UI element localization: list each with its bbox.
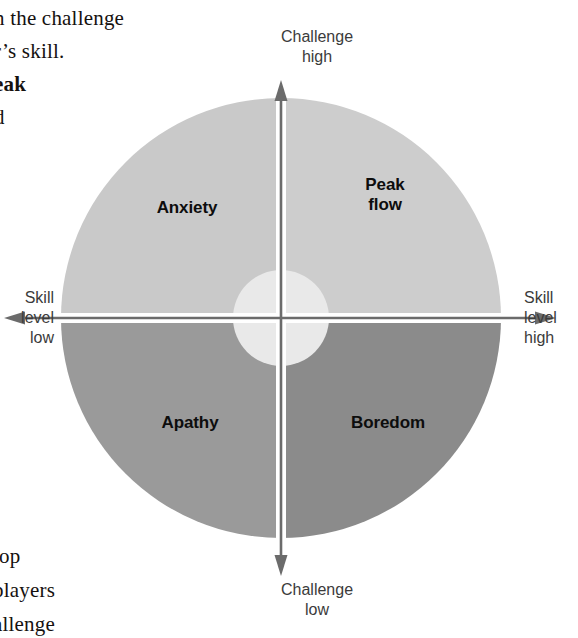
axis-label-challenge-low: Challenge low [262, 580, 372, 620]
axis-label-skill-high: Skill level high [524, 288, 557, 348]
axis-label-challenge-low-line1: Challenge [262, 580, 372, 600]
axis-label-challenge-low-line2: low [262, 600, 372, 620]
quadrant-label-peak-flow-line2: flow [330, 195, 440, 215]
axis-label-skill-high-line2: level [524, 308, 557, 328]
axis-label-skill-low-line1: Skill [0, 288, 54, 308]
quadrant-label-anxiety: Anxiety [117, 198, 257, 218]
axis-label-skill-low-line2: level [0, 308, 54, 328]
quadrant-label-peak-flow: Peak flow [330, 175, 440, 215]
axis-label-skill-low: Skill level low [0, 288, 54, 348]
flow-diagram-svg [0, 0, 578, 638]
quadrant-label-boredom: Boredom [318, 413, 458, 433]
axis-label-skill-high-line3: high [524, 328, 557, 348]
axis-label-challenge-high-line2: high [262, 47, 372, 67]
axis-label-challenge-high: Challenge high [262, 27, 372, 67]
axis-label-skill-high-line1: Skill [524, 288, 557, 308]
axis-label-challenge-high-line1: Challenge [262, 27, 372, 47]
quadrant-label-apathy: Apathy [120, 413, 260, 433]
flow-quadrant-diagram: Anxiety Peak flow Apathy Boredom Challen… [0, 0, 578, 638]
axis-label-skill-low-line3: low [0, 328, 54, 348]
quadrant-label-peak-flow-line1: Peak [330, 175, 440, 195]
